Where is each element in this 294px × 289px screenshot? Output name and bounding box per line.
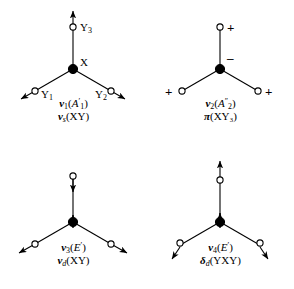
atom-x-center [68,217,77,226]
atom-y1 [179,88,185,94]
atom-y3 [70,24,76,30]
mode-caption-2-line1: ν2(A″2) [147,98,294,111]
mode-caption-2-line2: π(XY₃) [147,111,294,124]
symmetry-letter-2: A [218,97,225,109]
mode-caption-3-line2: νd(XY) [0,255,147,268]
description-group-2: (XY₃) [210,110,237,122]
mode-panel-4: ν4(E′) δd(YXY) [147,145,294,289]
mode-panel-3: ν3(E′) νd(XY) [0,145,147,289]
atom-x-center [215,217,224,226]
mode-caption-4: ν4(E′) δd(YXY) [147,242,294,269]
atom-y3 [217,24,223,30]
atom-y3 [70,173,76,179]
bond-x-y1 [182,69,220,91]
sign-plus-left: + [165,84,172,99]
sign-minus-center: – [226,50,234,65]
sign-plus-right: + [265,84,272,99]
atom-y1 [32,88,38,94]
symmetry-prime-4: ′ [227,241,229,250]
mode-caption-3-line1: ν3(E′) [0,242,147,255]
mode-caption-4-line2: δd(YXY) [147,255,294,268]
mode-caption-2: ν2(A″2) π(XY₃) [147,98,294,125]
mode-panel-1: Y3 Y1 Y2 X ν1(A′1) νs(XY) [0,0,147,144]
mode-caption-3: ν3(E′) νd(XY) [0,242,147,269]
description-group-1: (XY) [66,110,89,122]
atom-y2 [108,88,114,94]
mode-panel-2: + – + + ν2(A″2) π(XY₃) [147,0,294,144]
atom-y2 [255,88,261,94]
sign-plus-top: + [227,20,234,35]
mode-caption-4-line1: ν4(E′) [147,242,294,255]
mode-caption-1: ν1(A′1) νs(XY) [0,98,147,125]
atom-label-x: X [80,56,88,68]
atom-y3 [217,177,223,183]
description-group-3: (XY) [66,254,89,266]
symmetry-prime-3: ′ [80,241,82,250]
atom-x-center [215,64,224,73]
vibrational-modes-figure: Y3 Y1 Y2 X ν1(A′1) νs(XY) + – + + ν2(A″2… [0,0,294,289]
mode-caption-1-line2: νs(XY) [0,111,147,124]
bond-x-y2 [220,69,258,91]
atom-x-center [68,64,77,73]
bond-x-y1 [35,222,73,244]
bond-x-y2 [73,69,111,91]
mode-caption-1-line1: ν1(A′1) [0,98,147,111]
atom-label-y3: Y3 [80,21,92,35]
bond-x-y1 [182,222,220,244]
description-group-4: (YXY) [210,254,241,266]
